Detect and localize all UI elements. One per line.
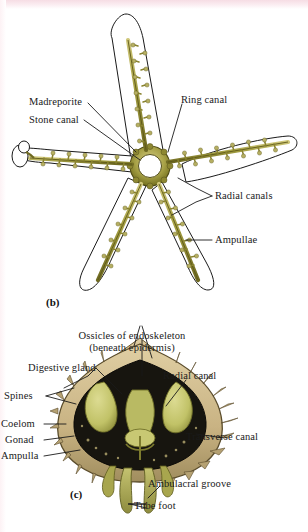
label-ambulacral-groove: Ambulacral groove bbox=[148, 478, 231, 490]
label-spines: Spines bbox=[4, 390, 33, 402]
label-gonad: Gonad bbox=[5, 434, 34, 446]
label-radial-canals: Radial canals bbox=[215, 190, 273, 202]
label-radial-canal: Radial canal bbox=[163, 370, 216, 382]
radial-canal-lower-right bbox=[159, 184, 199, 280]
leader-radial-canals-b bbox=[172, 196, 212, 215]
label-ampulla: Ampulla bbox=[1, 450, 38, 462]
gonad bbox=[126, 390, 155, 432]
panel-tag-c: (c) bbox=[70, 488, 82, 500]
label-ampullae: Ampullae bbox=[215, 234, 257, 246]
sea-star-water-vascular-artwork bbox=[0, 0, 308, 318]
label-digestive-gland: Digestive gland bbox=[28, 362, 96, 374]
label-transverse-canal: Transverse canal bbox=[186, 431, 258, 443]
label-stone-canal: Stone canal bbox=[29, 114, 79, 126]
label-ring-canal: Ring canal bbox=[181, 94, 227, 106]
panel-tag-b: (b) bbox=[46, 296, 59, 308]
label-ossicles-line2: (beneath epidermis) bbox=[62, 342, 202, 354]
label-coelom: Coelom bbox=[1, 418, 35, 430]
label-tube-foot: Tube foot bbox=[134, 500, 176, 512]
leader-ring-canal bbox=[168, 104, 182, 152]
label-madreporite: Madreporite bbox=[29, 96, 82, 108]
label-ossicles-line1: Ossicles of endoskeleton bbox=[62, 330, 202, 342]
panel-c-arm-cross-section: Ossicles of endoskeleton (beneath epider… bbox=[0, 318, 308, 532]
panel-b-water-vascular-system: Madreporite Stone canal Ring canal Radia… bbox=[0, 0, 308, 318]
figure-root: Madreporite Stone canal Ring canal Radia… bbox=[0, 0, 308, 532]
